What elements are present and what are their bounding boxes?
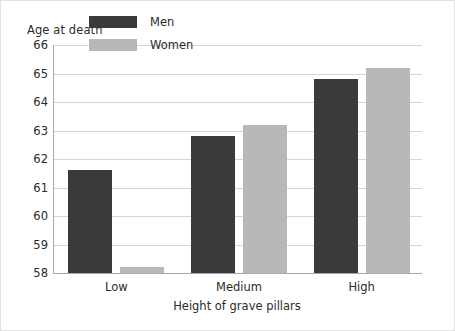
legend-label: Women (150, 38, 193, 52)
y-axis-tick-label: 58 (33, 266, 48, 280)
y-axis-tick-label: 62 (33, 152, 48, 166)
bar-group: Low (68, 45, 164, 273)
legend-swatch-women (89, 39, 137, 51)
y-axis-tick-label: 64 (33, 95, 48, 109)
bar-women-high (366, 68, 410, 273)
plot-area: 666564636261605958 LowMediumHigh (53, 45, 422, 274)
bars-layer: LowMediumHigh (55, 45, 422, 273)
x-axis-tick-label: Medium (191, 280, 287, 294)
y-axis-tick-label: 63 (33, 124, 48, 138)
x-axis-tick-label: High (314, 280, 410, 294)
legend-item-men: Men (89, 15, 193, 29)
y-axis-tick-label: 61 (33, 181, 48, 195)
bar-men-low (68, 170, 112, 273)
bar-men-medium (191, 136, 235, 273)
y-axis-tick-label: 65 (33, 67, 48, 81)
y-axis-tick-label: 59 (33, 238, 48, 252)
y-axis-tick-label: 66 (33, 38, 48, 52)
bar-men-high (314, 79, 358, 273)
legend-swatch-men (89, 16, 137, 28)
legend-item-women: Women (89, 38, 193, 52)
y-axis-tick-label: 60 (33, 209, 48, 223)
legend: MenWomen (89, 15, 193, 52)
x-axis-title: Height of grave pillars (53, 299, 421, 313)
bar-chart-figure: Age at death 666564636261605958 LowMediu… (0, 0, 455, 331)
bar-group: High (314, 45, 410, 273)
x-axis-tick-label: Low (68, 280, 164, 294)
bar-women-medium (243, 125, 287, 273)
bar-group: Medium (191, 45, 287, 273)
bar-women-low (120, 267, 164, 273)
legend-label: Men (150, 15, 174, 29)
gridline (54, 273, 422, 274)
